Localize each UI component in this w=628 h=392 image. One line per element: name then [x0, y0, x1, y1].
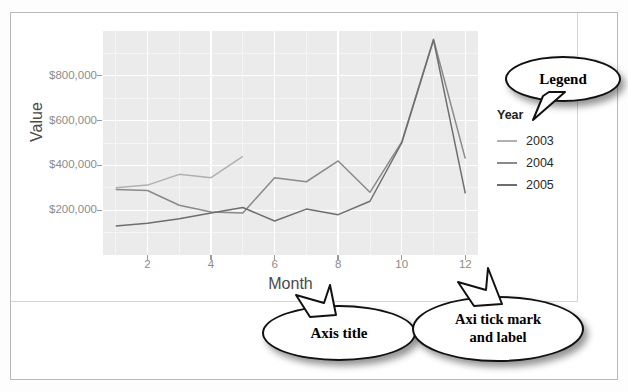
line-chart: $200,000$400,000$600,000$800,00024681012…: [11, 13, 578, 302]
legend-item-2004: 2004: [497, 152, 577, 174]
legend-item-label: 2003: [526, 134, 554, 148]
legend-item-label: 2005: [526, 178, 554, 192]
x-axis-tick-label: 8: [335, 259, 341, 271]
y-axis-tick-mark: [97, 75, 102, 76]
y-axis-tick-label: $600,000: [49, 115, 97, 127]
plot-lines: [103, 31, 478, 255]
callout-axis-title-tail: [290, 283, 356, 325]
series-line-2003: [116, 156, 243, 187]
y-axis-tick-label: $800,000: [49, 70, 97, 82]
legend-key-swatch: [497, 184, 517, 186]
x-axis-tick-label: 2: [144, 259, 150, 271]
legend-item-2003: 2003: [497, 130, 577, 152]
callout-tick-line1: Axi tick mark: [455, 311, 541, 327]
legend-item-label: 2004: [526, 156, 554, 170]
callout-tick-line2: and label: [470, 329, 527, 345]
screenshot-root: $200,000$400,000$600,000$800,00024681012…: [0, 0, 628, 392]
legend-key-swatch: [497, 162, 517, 164]
series-line-2005: [116, 40, 466, 226]
y-axis-tick-label: $200,000: [49, 204, 97, 216]
legend-item-2005: 2005: [497, 174, 577, 196]
x-axis-tick-label: 10: [395, 259, 408, 271]
x-axis-tick-label: 6: [271, 259, 277, 271]
callout-tick-tail: [452, 266, 524, 312]
legend-items: 200320042005: [497, 130, 577, 196]
callout-legend-tail: [519, 86, 579, 126]
y-axis-title: Value: [28, 72, 46, 172]
y-axis-tick-mark: [97, 210, 102, 211]
y-axis-tick-mark: [97, 120, 102, 121]
y-axis-tick-label: $400,000: [49, 159, 97, 171]
x-axis-tick-label: 4: [208, 259, 214, 271]
y-axis-tick-mark: [97, 165, 102, 166]
series-line-2004: [116, 39, 466, 213]
legend-key-swatch: [497, 140, 517, 142]
